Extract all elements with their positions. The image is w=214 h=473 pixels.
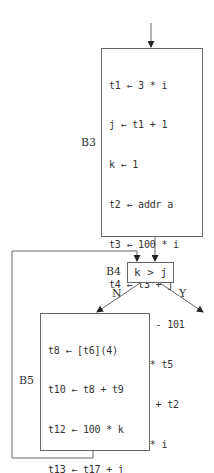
code-line: t1 ← 3 * i [109, 79, 202, 92]
block-b4-condition: k > j [127, 262, 174, 283]
code-line: t3 ← 100 * i [109, 238, 202, 251]
code-line: t13 ← t17 + j [48, 463, 149, 473]
code-line: t10 ← t8 + t9 [48, 383, 149, 396]
code-line: t8 ← [t6](4) [48, 344, 149, 357]
code-line: k ← 1 [109, 158, 202, 171]
block-label-b3: B3 [81, 136, 96, 149]
code-line: t12 ← 100 * k [48, 423, 149, 436]
block-b5-code: t8 ← [t6](4) t10 ← t8 + t9 t12 ← 100 * k… [41, 314, 149, 473]
edge-label-y: Y [179, 287, 186, 300]
block-b5: t8 ← [t6](4) t10 ← t8 + t9 t12 ← 100 * k… [40, 313, 150, 451]
block-label-b5: B5 [19, 374, 34, 387]
block-b3: t1 ← 3 * i j ← t1 + 1 k ← 1 t2 ← addr a … [101, 48, 203, 237]
code-line: j ← t1 + 1 [109, 118, 202, 131]
code-line: t2 ← addr a [109, 198, 202, 211]
edge-label-n: N [112, 287, 122, 300]
block-label-b4: B4 [106, 265, 121, 278]
